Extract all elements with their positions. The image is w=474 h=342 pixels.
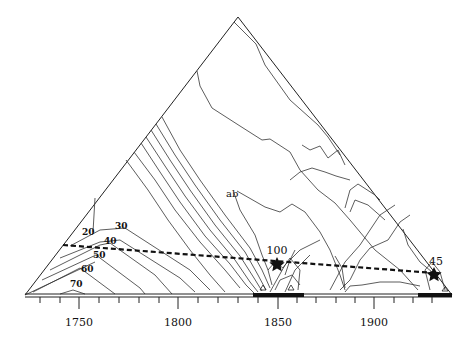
triangle-frame	[25, 17, 452, 295]
x-tick-label-1900: 1900	[360, 316, 388, 329]
star-label-45: 45	[429, 255, 443, 268]
star-label-100: 100	[267, 244, 288, 257]
x-tick-label-1800: 1800	[164, 316, 192, 329]
contour-label-20: 20	[82, 227, 95, 237]
contour-label-30: 30	[115, 221, 128, 231]
triangle-contour-plot: 1750 1800 1850 1900 20 30 40 50 60 70 ab…	[0, 0, 474, 342]
x-tick-label-1850: 1850	[264, 316, 292, 329]
x-axis	[25, 294, 452, 309]
contour-label-50: 50	[93, 250, 106, 260]
contour-lines	[25, 22, 445, 295]
contour-label-40: 40	[104, 236, 117, 246]
contour-label-60: 60	[81, 264, 94, 274]
contour-label-70: 70	[70, 279, 83, 289]
contour-label-ab: ab	[226, 188, 238, 199]
x-tick-label-1750: 1750	[65, 316, 93, 329]
